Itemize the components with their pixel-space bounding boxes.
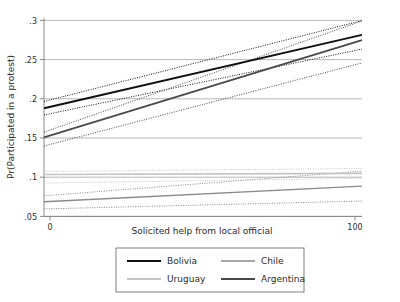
predicted-probability-line-chart: .3 .25 .2 .15 .1 .05 0 100 Solicited hel… [0,0,400,302]
legend-label-argentina: Argentina [261,274,305,284]
legend-label-chile: Chile [261,256,284,266]
y-axis-title: Pr(Participated in a protest) [6,55,16,179]
chart-figure: .3 .25 .2 .15 .1 .05 0 100 Solicited hel… [0,0,400,302]
y-tick-label-0.15: .15 [24,134,37,143]
x-axis-ticks [50,216,355,220]
legend-label-uruguay: Uruguay [167,274,206,284]
y-tick-label-0.2: .2 [29,95,37,104]
y-tick-label-0.1: .1 [29,173,37,182]
legend-box [116,248,304,292]
plot-area-background [44,18,362,216]
x-tick-label-100: 100 [347,223,362,232]
y-tick-label-0.05: .05 [24,213,37,222]
series-line-uruguay [44,173,362,174]
y-axis-ticks [40,20,44,216]
y-tick-label-0.25: .25 [24,56,37,65]
legend-label-bolivia: Bolivia [167,256,197,266]
legend: Bolivia Chile Uruguay Argentina [116,248,305,292]
y-tick-label-0.3: .3 [29,17,37,26]
x-axis-title: Solicited help from local official [132,226,273,236]
x-tick-label-0: 0 [47,223,52,232]
